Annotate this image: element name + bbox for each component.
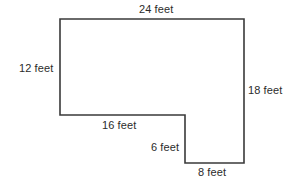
geometry-figure: 24 feet 12 feet 18 feet 16 feet 6 feet 8… [0,0,301,187]
dimension-label-notch: 6 feet [151,141,179,153]
dimension-label-right: 18 feet [248,84,282,96]
dimension-label-middle: 16 feet [102,119,136,131]
dimension-label-bottom: 8 feet [198,166,226,178]
dimension-label-top: 24 feet [139,3,173,15]
dimension-label-left: 12 feet [19,62,53,74]
